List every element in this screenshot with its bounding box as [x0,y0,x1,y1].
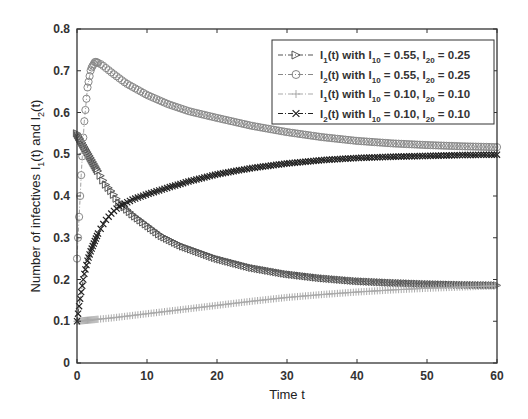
legend: I1(t) with I10 = 0.55, I20 = 0.25I2(t) w… [272,40,494,124]
y-tick-label: 0.8 [53,22,70,36]
y-tick-label: 0.5 [53,147,70,161]
y-tick-label: 0.2 [53,273,70,287]
x-tick-label: 0 [74,369,81,383]
x-axis-label: Time t [269,387,305,402]
x-tick-label: 30 [280,369,294,383]
y-tick-label: 0.4 [53,189,70,203]
y-tick-label: 0.7 [53,64,70,78]
chart: 010203040506000.10.20.30.40.50.60.70.8 T… [0,0,528,419]
x-tick-label: 20 [210,369,224,383]
y-tick-label: 0.3 [53,231,70,245]
y-axis-label: Number of infectives I1(t) and I2(t) [28,100,46,293]
x-tick-label: 40 [350,369,364,383]
y-tick-label: 0.1 [53,314,70,328]
y-tick-label: 0.6 [53,106,70,120]
y-tick-label: 0 [63,356,70,370]
x-tick-label: 50 [420,369,434,383]
series-plus [73,282,500,325]
x-tick-label: 60 [490,369,504,383]
x-tick-label: 10 [140,369,154,383]
